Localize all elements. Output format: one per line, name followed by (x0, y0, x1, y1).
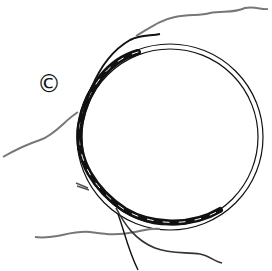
wire-tuft (76, 183, 89, 190)
wire-ring-illustration (0, 0, 272, 271)
wrapped-wire-section (79, 52, 220, 222)
wire-end-bottom-left (35, 229, 160, 238)
wire-end-left (3, 112, 78, 157)
wire-end-bottom-branch (118, 214, 138, 270)
wire-end-top-right (136, 7, 268, 36)
figure-label: © (36, 71, 62, 97)
figure-panel: © (0, 0, 272, 271)
